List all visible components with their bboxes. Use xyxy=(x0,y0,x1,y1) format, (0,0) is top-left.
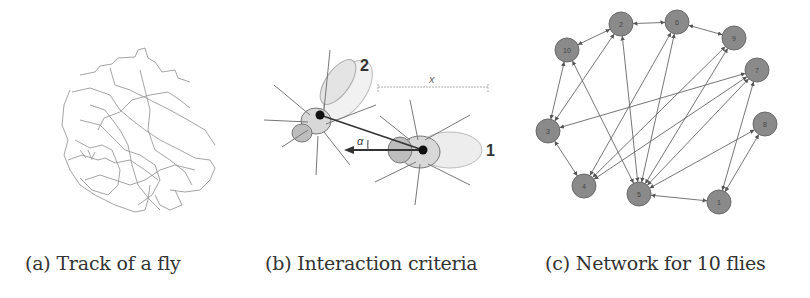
network-edge xyxy=(633,22,665,23)
panel-network: 10269738451 xyxy=(520,0,810,230)
fly-track-plot xyxy=(20,0,220,240)
fly-1-icon xyxy=(375,100,482,205)
node-label: 6 xyxy=(675,19,679,26)
caption-b: (b) Interaction criteria xyxy=(265,252,478,274)
network-edge xyxy=(649,130,754,188)
node-label: 3 xyxy=(546,128,550,135)
network-graph: 10269738451 xyxy=(520,0,810,230)
connecting-line xyxy=(320,115,423,150)
network-edge xyxy=(572,61,633,184)
fly-2-label: 2 xyxy=(360,57,369,74)
angle-label: α xyxy=(357,135,364,147)
fly-2-center-dot xyxy=(316,111,325,120)
node-label: 5 xyxy=(637,191,641,198)
flies-illustration: α x 2 1 xyxy=(260,0,500,230)
node-label: 8 xyxy=(763,121,767,128)
fly-1-label: 1 xyxy=(486,142,495,159)
node-label: 9 xyxy=(732,35,736,42)
network-edge xyxy=(555,141,578,176)
distance-label: x xyxy=(428,73,435,85)
caption-a: (a) Track of a fly xyxy=(25,252,181,274)
node-label: 1 xyxy=(717,199,721,206)
node-label: 2 xyxy=(619,21,623,28)
caption-c: (c) Network for 10 flies xyxy=(545,252,766,274)
network-edge xyxy=(645,48,728,184)
fly-1-center-dot xyxy=(419,146,428,155)
arrowhead-icon xyxy=(344,146,354,154)
network-edge xyxy=(651,195,707,201)
node-label: 4 xyxy=(582,183,586,190)
network-edge xyxy=(689,25,723,35)
network-edge xyxy=(722,82,753,191)
node-label: 7 xyxy=(755,67,759,74)
distance-bracket xyxy=(378,84,488,92)
panel-interaction: α x 2 1 xyxy=(260,0,500,230)
network-edge xyxy=(578,29,610,45)
network-edge xyxy=(647,79,748,186)
network-edge xyxy=(560,73,746,127)
panel-track xyxy=(20,0,220,240)
node-label: 10 xyxy=(563,47,571,54)
